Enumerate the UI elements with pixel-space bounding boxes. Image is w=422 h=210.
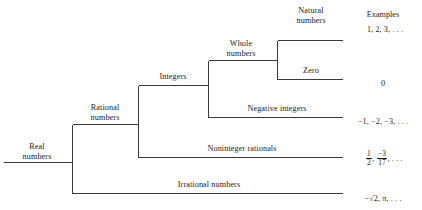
example-negative-integers: −1, −2, −3, . . .	[344, 117, 422, 127]
node-label-real-numbers-line1: Real	[8, 142, 66, 152]
fraction-denominator: 17	[377, 159, 387, 167]
node-label-noninteger-rationals-line1: Noninteger rationals	[141, 144, 343, 154]
node-label-rational-numbers-line2: numbers	[75, 113, 135, 123]
example-fraction-neg-three-seventeenths: −3 17	[377, 150, 387, 167]
example-irrational-numbers: −√2, π, . . .	[346, 194, 420, 204]
example-fraction-separator: ,	[372, 154, 374, 164]
node-label-integers-line1: Integers	[143, 72, 203, 82]
node-label-whole-numbers: Whole numbers	[210, 39, 272, 58]
example-zero: 0	[348, 79, 418, 89]
node-label-irrational-numbers: Irrational numbers	[75, 180, 343, 190]
node-label-natural-numbers: Natural numbers	[279, 6, 343, 25]
node-label-whole-numbers-line1: Whole	[210, 39, 272, 49]
node-label-zero: Zero	[279, 66, 343, 76]
node-label-integers: Integers	[143, 72, 203, 82]
node-label-irrational-numbers-line1: Irrational numbers	[75, 180, 343, 190]
examples-column-header: Examples	[348, 10, 418, 20]
node-label-whole-numbers-line2: numbers	[210, 49, 272, 59]
node-label-noninteger-rationals: Noninteger rationals	[141, 144, 343, 154]
real-number-classification-diagram: Real numbers Rational numbers Integers W…	[0, 0, 422, 210]
node-label-zero-line1: Zero	[279, 66, 343, 76]
node-label-natural-numbers-line2: numbers	[279, 16, 343, 26]
fraction-denominator: 2	[366, 159, 372, 167]
node-label-negative-integers: Negative integers	[211, 104, 343, 114]
example-fraction-tail: , . . .	[388, 154, 403, 164]
node-label-real-numbers-line2: numbers	[8, 152, 66, 162]
example-fraction-one-half: 1 2	[366, 150, 372, 167]
node-label-real-numbers: Real numbers	[8, 142, 66, 161]
node-label-negative-integers-line1: Negative integers	[211, 104, 343, 114]
node-label-natural-numbers-line1: Natural	[279, 6, 343, 16]
node-label-rational-numbers: Rational numbers	[75, 103, 135, 122]
example-natural-numbers: 1, 2, 3, . . .	[348, 25, 422, 35]
example-noninteger-rationals: 1 2 , −3 17 , . . .	[348, 150, 420, 167]
node-label-rational-numbers-line1: Rational	[75, 103, 135, 113]
